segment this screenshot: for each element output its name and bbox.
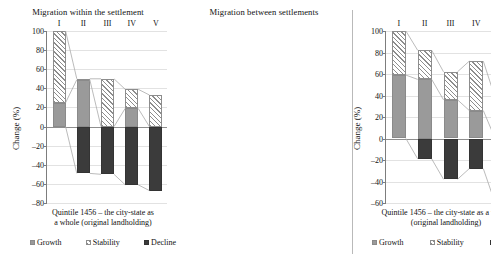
y-tick-mark <box>44 31 47 32</box>
chart-panel-summary: Change (%) 806040200–20–40–60Within thes… <box>352 0 491 262</box>
category-label: V <box>153 19 159 28</box>
bar-stability <box>149 95 162 127</box>
stability-swatch-icon <box>86 240 91 245</box>
y-tick-label: 60 <box>36 65 44 74</box>
y-tick-label: –60 <box>32 179 44 188</box>
y-tick-label: 0 <box>40 122 44 131</box>
x-axis-caption-1: Quintile 1456 – the city-state as a whol… <box>28 208 178 228</box>
bar-growth <box>77 80 90 127</box>
plot-area-1: 100806040200–20–40–60–80IIIIIIIVV <box>46 31 167 203</box>
y-tick-mark <box>44 50 47 51</box>
chart-panel-within-settlement: Migration within the settlement Change (… <box>0 0 176 262</box>
category-label: IV <box>127 19 135 28</box>
y-axis-label-1: Change (%) <box>11 107 21 150</box>
decline-swatch-icon <box>144 240 149 245</box>
bar-growth <box>125 108 138 126</box>
bar-decline <box>149 127 162 191</box>
legend-item-stability: Stability <box>86 238 120 247</box>
y-tick-label: –40 <box>32 160 44 169</box>
y-tick-label: –80 <box>32 199 44 208</box>
bar-decline <box>101 127 114 175</box>
bar-stability <box>125 89 138 108</box>
y-tick-mark <box>44 165 47 166</box>
chart-title-1: Migration within the settlement <box>0 7 176 17</box>
bar-decline <box>77 127 90 174</box>
y-tick-label: 80 <box>36 46 44 55</box>
category-label: I <box>58 19 61 28</box>
y-tick-mark <box>44 127 47 128</box>
growth-swatch-icon <box>30 240 35 245</box>
y-tick-mark <box>44 88 47 89</box>
x-caption-line-1: Quintile 1456 – the city-state as <box>52 208 154 217</box>
figure-root: Migration within the settlement Change (… <box>0 0 491 262</box>
y-tick-label: 100 <box>32 27 44 36</box>
legend-1: Growth Stability Decline <box>30 238 176 247</box>
chart-title-2: Migration between settlements <box>176 7 352 17</box>
bar-growth <box>53 103 66 127</box>
category-label: II <box>81 19 86 28</box>
legend-label-stability: Stability <box>93 238 120 247</box>
bar-decline <box>125 127 138 185</box>
y-tick-label: –20 <box>32 141 44 150</box>
legend-label-decline: Decline <box>151 238 176 247</box>
bar-stability <box>53 31 66 103</box>
chart-panel-between-settlements: Migration between settlements Change (%)… <box>176 0 352 262</box>
gridline <box>47 203 167 204</box>
category-label: III <box>104 19 112 28</box>
y-tick-mark <box>44 146 47 147</box>
legend-item-decline: Decline <box>144 238 176 247</box>
y-tick-mark <box>44 184 47 185</box>
y-tick-mark <box>44 69 47 70</box>
legend-item-growth: Growth <box>30 238 61 247</box>
x-caption-line-2: a whole (original landholding) <box>54 218 152 227</box>
y-tick-mark <box>44 203 47 204</box>
y-tick-label: 20 <box>36 103 44 112</box>
legend-label-growth: Growth <box>37 238 61 247</box>
bar-stability <box>101 79 114 127</box>
y-tick-mark <box>44 107 47 108</box>
y-tick-label: 40 <box>36 84 44 93</box>
